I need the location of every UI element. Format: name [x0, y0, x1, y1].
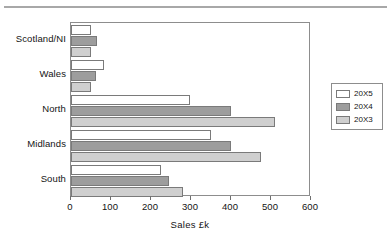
x-tick-label-300: 300	[170, 201, 210, 212]
x-tick-300	[190, 196, 191, 200]
x-tick-500	[270, 196, 271, 200]
legend: 20X5 20X4 20X3	[331, 83, 383, 130]
legend-label-20x5: 20X5	[354, 89, 373, 98]
x-tick-100	[110, 196, 111, 200]
bar-chart-figure: Scotland/NI Wales North Midlands South 0…	[0, 0, 391, 241]
x-tick-label-400: 400	[210, 201, 250, 212]
x-tick-label-600: 600	[290, 201, 330, 212]
y-label-south: South	[41, 173, 66, 184]
x-tick-0	[70, 196, 71, 200]
legend-swatch-icon-20x3	[336, 116, 350, 124]
legend-swatch-icon-20x4	[336, 103, 350, 111]
legend-item-20x5[interactable]: 20X5	[336, 88, 379, 99]
y-label-wales: Wales	[39, 68, 66, 79]
y-label-scotland-ni: Scotland/NI	[16, 33, 66, 44]
y-label-midlands: Midlands	[27, 138, 66, 149]
legend-item-20x3[interactable]: 20X3	[336, 114, 379, 125]
legend-item-20x4[interactable]: 20X4	[336, 101, 379, 112]
legend-swatch-icon-20x5	[336, 90, 350, 98]
x-tick-label-500: 500	[250, 201, 290, 212]
legend-label-20x4: 20X4	[354, 102, 373, 111]
x-tick-600	[310, 196, 311, 200]
x-axis-title: Sales £k	[70, 219, 310, 230]
x-tick-400	[230, 196, 231, 200]
x-tick-label-100: 100	[90, 201, 130, 212]
x-tick-label-0: 0	[50, 201, 90, 212]
legend-label-20x3: 20X3	[354, 115, 373, 124]
y-label-north: North	[42, 103, 66, 114]
x-tick-200	[150, 196, 151, 200]
x-tick-label-200: 200	[130, 201, 170, 212]
